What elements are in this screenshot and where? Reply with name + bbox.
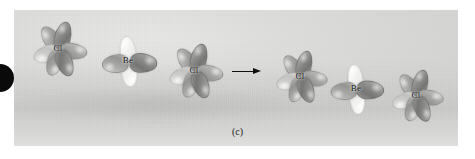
atom-label-cl-left: Cl bbox=[54, 44, 63, 53]
rightwards-arrow-icon bbox=[232, 68, 262, 75]
atom-label-be-product-center: Be bbox=[351, 84, 361, 93]
figure-caption: (c) bbox=[0, 126, 475, 137]
orbital-overlap-figure: Cl Be Cl Cl Be Cl (c) bbox=[0, 0, 475, 159]
atom-label-cl-product-left: Cl bbox=[296, 72, 305, 81]
atom-label-cl-product-right: Cl bbox=[412, 91, 421, 100]
atom-label-cl-right: Cl bbox=[190, 66, 199, 75]
atom-label-be-center: Be bbox=[123, 56, 133, 65]
arrow-shaft bbox=[232, 71, 255, 73]
arrow-head bbox=[253, 68, 261, 74]
black-half-disc-icon bbox=[0, 64, 14, 92]
